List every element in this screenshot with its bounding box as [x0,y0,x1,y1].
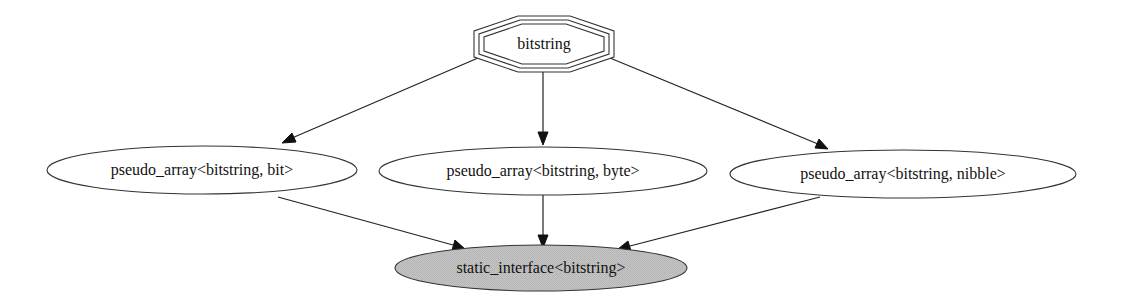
edge-pa-byte-to-static-interface [538,195,548,248]
node-label: pseudo_array<bitstring, nibble> [800,165,1006,183]
edge-bitstring-to-pa-nibble [610,58,828,149]
node-static-interface[interactable]: static_interface<bitstring> [395,245,687,291]
edge-pa-nibble-to-static-interface [618,197,820,251]
node-label: bitstring [517,35,570,53]
arrowhead-icon [815,139,828,149]
arrowhead-icon [538,132,548,145]
node-pseudo-array-bit[interactable]: pseudo_array<bitstring, bit> [47,146,357,194]
edge-pa-bit-to-static-interface [278,197,465,250]
edge-bitstring-to-pa-byte [538,68,548,145]
arrowhead-icon [282,133,296,143]
node-label: pseudo_array<bitstring, byte> [446,162,639,180]
node-pseudo-array-nibble[interactable]: pseudo_array<bitstring, nibble> [730,150,1076,198]
node-bitstring[interactable]: bitstring [474,16,614,72]
node-label: pseudo_array<bitstring, bit> [111,161,293,179]
node-label: static_interface<bitstring> [456,259,625,277]
dependency-graph: bitstring pseudo_array<bitstring, bit> p… [0,0,1129,303]
node-pseudo-array-byte[interactable]: pseudo_array<bitstring, byte> [379,147,707,195]
edge-bitstring-to-pa-bit [282,58,478,143]
